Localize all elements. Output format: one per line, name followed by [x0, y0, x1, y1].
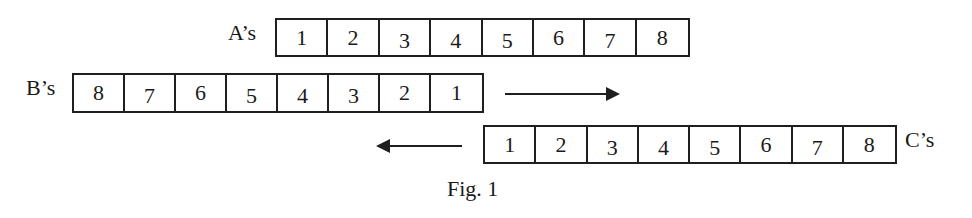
cell-value: 1 — [296, 25, 307, 51]
row-b-cell: 4 — [278, 75, 329, 111]
row-c-cell: 6 — [741, 127, 792, 162]
row-a-cell: 2 — [328, 20, 379, 55]
row-c-cell: 1 — [485, 127, 536, 162]
cell-value: 7 — [144, 83, 155, 109]
row-a-cell: 3 — [380, 20, 431, 55]
row-a-cell: 6 — [534, 20, 585, 55]
row-a-label: A’s — [228, 20, 256, 46]
row-c-boxes: 1 2 3 4 5 6 7 8 — [483, 125, 897, 164]
row-c-cell: 8 — [844, 127, 895, 162]
row-b-cell: 1 — [431, 75, 482, 111]
row-c-cell: 4 — [639, 127, 690, 162]
cell-value: 3 — [348, 83, 359, 109]
row-a-boxes: 1 2 3 4 5 6 7 8 — [275, 18, 690, 57]
figure-caption: Fig. 1 — [447, 176, 498, 202]
row-b-cell: 8 — [74, 75, 125, 111]
row-a-cell: 4 — [431, 20, 482, 55]
cell-value: 4 — [297, 83, 308, 109]
cell-value: 5 — [709, 135, 720, 161]
cell-value: 5 — [246, 83, 257, 109]
cell-value: 6 — [760, 132, 771, 158]
cell-value: 8 — [93, 80, 104, 106]
row-c-cell: 3 — [588, 127, 639, 162]
cell-value: 1 — [504, 132, 515, 158]
row-a-cell: 8 — [637, 20, 688, 55]
arrow-left-icon — [378, 145, 462, 147]
row-a-cell: 7 — [585, 20, 636, 55]
cell-value: 5 — [502, 28, 513, 54]
cell-value: 3 — [399, 28, 410, 54]
row-b-boxes: 8 7 6 5 4 3 2 1 — [72, 73, 484, 113]
cell-value: 8 — [657, 25, 668, 51]
row-c-cell: 5 — [690, 127, 741, 162]
row-b-cell: 5 — [227, 75, 278, 111]
cell-value: 6 — [553, 25, 564, 51]
cell-value: 7 — [604, 28, 615, 54]
row-c-cell: 7 — [793, 127, 844, 162]
cell-value: 2 — [399, 80, 410, 106]
row-a-cell: 1 — [277, 20, 328, 55]
cell-value: 4 — [450, 28, 461, 54]
cell-value: 3 — [607, 135, 618, 161]
bleed-through-text — [600, 70, 972, 90]
row-b-label: B’s — [26, 75, 55, 101]
cell-value: 1 — [451, 80, 462, 106]
row-a-cell: 5 — [483, 20, 534, 55]
cell-value: 8 — [864, 132, 875, 158]
row-b-cell: 6 — [176, 75, 227, 111]
row-c-cell: 2 — [536, 127, 587, 162]
cell-value: 2 — [348, 25, 359, 51]
arrow-right-icon — [505, 93, 618, 95]
cell-value: 7 — [812, 135, 823, 161]
cell-value: 4 — [658, 135, 669, 161]
row-b-cell: 3 — [329, 75, 380, 111]
cell-value: 2 — [555, 132, 566, 158]
cell-value: 6 — [195, 80, 206, 106]
row-c-label: C’s — [905, 127, 934, 153]
row-b-cell: 2 — [380, 75, 431, 111]
row-b-cell: 7 — [125, 75, 176, 111]
